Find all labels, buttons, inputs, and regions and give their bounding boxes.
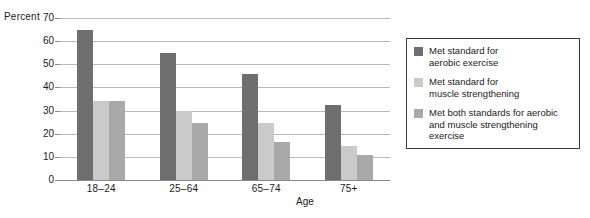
bar [93, 101, 109, 180]
x-axis-tick-label: 18–24 [60, 183, 143, 194]
bar [109, 101, 125, 180]
bar-group [308, 18, 391, 180]
bar [341, 146, 357, 180]
plot-area [60, 18, 390, 180]
y-axis-tick-label: 40 [28, 81, 54, 92]
bar [325, 105, 341, 180]
bar-chart: Percent 010203040506070 18–2425–6465–747… [0, 0, 590, 218]
y-axis-tick-label: 70 [28, 12, 54, 23]
x-axis-tick-label: 75+ [308, 183, 391, 194]
legend-item: Met both standards for aerobic and muscl… [414, 107, 573, 142]
chart-legend: Met standard for aerobic exerciseMet sta… [406, 38, 580, 149]
legend-item: Met standard for muscle strengthening [414, 76, 573, 99]
legend-swatch [414, 109, 423, 118]
bar [192, 123, 208, 180]
bar [160, 53, 176, 180]
x-axis-tick-label: 65–74 [225, 183, 308, 194]
legend-label: Met standard for muscle strengthening [429, 76, 519, 99]
y-axis-tickmark [55, 180, 60, 181]
bar [258, 123, 274, 180]
legend-item: Met standard for aerobic exercise [414, 45, 573, 68]
bar [357, 155, 373, 180]
legend-swatch [414, 78, 423, 87]
y-axis-tick-label: 20 [28, 128, 54, 139]
bar [274, 142, 290, 180]
axis-baseline [60, 180, 390, 181]
bar [77, 30, 93, 180]
legend-label: Met standard for aerobic exercise [429, 45, 498, 68]
y-axis-tick-label: 50 [28, 58, 54, 69]
y-axis-tick-label: 0 [28, 174, 54, 185]
bar [176, 111, 192, 180]
legend-swatch [414, 47, 423, 56]
legend-label: Met both standards for aerobic and muscl… [429, 107, 573, 142]
bar-group [225, 18, 308, 180]
y-axis-tick-label: 10 [28, 151, 54, 162]
x-axis-tick-labels: 18–2425–6465–7475+ [60, 183, 390, 194]
bar [242, 74, 258, 180]
bar-group [143, 18, 226, 180]
x-axis-title: Age [0, 196, 590, 207]
y-axis-tick-label: 60 [28, 35, 54, 46]
y-axis-tick-label: 30 [28, 105, 54, 116]
y-axis-tick-labels: 010203040506070 [28, 18, 54, 180]
bar-group [60, 18, 143, 180]
bar-groups [60, 18, 390, 180]
x-axis-tick-label: 25–64 [143, 183, 226, 194]
